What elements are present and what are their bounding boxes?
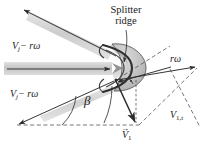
vector-overarrow-icon: → [121, 125, 129, 133]
absolute-velocity-subscript: 1 [128, 134, 132, 142]
jet-lower-label: Vj− rω [10, 89, 38, 101]
blade-speed-symbol: rω [170, 53, 181, 64]
jet-band-incoming [4, 62, 112, 75]
splitter-ridge-label: Splitter ridge [100, 4, 152, 26]
blade-speed-label: rω [170, 54, 181, 65]
splitter-ridge-label-line2: ridge [115, 15, 137, 26]
pelton-bucket-velocity-diagram: Splitter ridge Vj− rω Vj− rω rω V1,t →V1… [0, 0, 205, 148]
parallelogram-dashed-side [139, 68, 197, 125]
beta-angle-label: β [84, 94, 90, 108]
absolute-velocity-label: →V1 [122, 130, 132, 142]
tangential-component-label: V1,t [170, 110, 183, 122]
velocity-triangle-apex [115, 79, 118, 82]
jet-upper-label: Vj− rω [12, 41, 40, 53]
splitter-ridge-label-line1: Splitter [111, 4, 142, 15]
right-angle-dot [130, 80, 132, 82]
jet-lower-remainder: − rω [18, 88, 38, 99]
tangential-subscript: 1,t [176, 114, 183, 122]
jet-upper-remainder: − rω [20, 40, 40, 51]
